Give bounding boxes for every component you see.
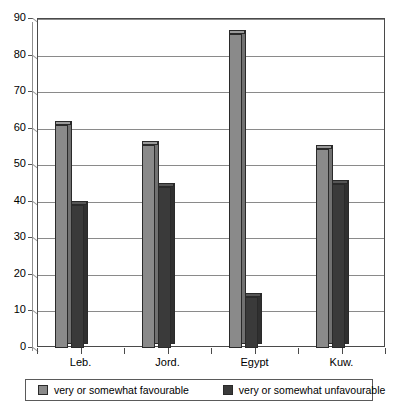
x-tick-mark (37, 348, 38, 354)
y-tick-label-wrap: 50 (2, 158, 26, 169)
y-tick-label-wrap: 20 (2, 268, 26, 279)
y-tick-label: 30 (14, 231, 26, 242)
bar-kuw-series1 (332, 180, 348, 349)
y-tick-label-wrap: 10 (2, 304, 26, 315)
x-tick-mark (124, 348, 125, 354)
bar-front-face (142, 145, 155, 348)
y-tick-label-wrap: 80 (2, 49, 26, 60)
x-tick-mark (81, 348, 82, 354)
legend-entry-1: very or somewhat unfavourable (223, 384, 386, 396)
y-tick-label: 0 (20, 341, 26, 352)
x-axis: Leb.Jord.EgyptKuw. (37, 348, 385, 368)
y-tick-label: 10 (14, 304, 26, 315)
bar-egypt-series1 (245, 293, 261, 348)
plot-area (37, 18, 385, 347)
gridline (38, 19, 384, 20)
chart-legend: very or somewhat favourablevery or somew… (25, 379, 373, 401)
bar-front-face (245, 297, 258, 348)
bar-leb-series1 (71, 201, 87, 348)
y-tick-label: 70 (14, 85, 26, 96)
bar-front-face (332, 184, 345, 349)
bar-leb-series0 (55, 121, 71, 348)
bar-jord-series1 (158, 183, 174, 348)
legend-entry-0: very or somewhat favourable (38, 384, 189, 396)
legend-label-1: very or somewhat unfavourable (239, 384, 386, 396)
y-tick-label: 20 (14, 268, 26, 279)
bar-front-face (71, 205, 84, 348)
bar-front-face (158, 187, 171, 348)
bar-front-face (55, 125, 68, 348)
x-tick-mark (342, 348, 343, 354)
y-tick-label-wrap: 30 (2, 231, 26, 242)
bar-chart: 0102030405060708090 Leb.Jord.EgyptKuw. v… (0, 0, 398, 411)
y-tick-label: 60 (14, 122, 26, 133)
x-tick-mark (168, 348, 169, 354)
bar-kuw-series0 (316, 145, 332, 348)
gridline (38, 56, 384, 57)
y-tick-label-wrap: 60 (2, 122, 26, 133)
y-tick-label: 40 (14, 195, 26, 206)
y-tick-label: 80 (14, 49, 26, 60)
x-axis-label-egypt: Egypt (211, 356, 298, 368)
bar-front-face (316, 149, 329, 348)
legend-swatch-0 (38, 385, 48, 395)
y-tick-label: 90 (14, 12, 26, 23)
x-axis-label-jord: Jord. (124, 356, 211, 368)
bar-front-face (229, 34, 242, 348)
x-axis-label-kuw: Kuw. (298, 356, 385, 368)
bar-jord-series0 (142, 141, 158, 348)
y-tick-label-wrap: 40 (2, 195, 26, 206)
gridline (38, 129, 384, 130)
y-tick-label-wrap: 90 (2, 12, 26, 23)
x-tick-mark (255, 348, 256, 354)
bar-egypt-series0 (229, 30, 245, 348)
legend-swatch-1 (223, 385, 233, 395)
y-tick-label-wrap: 0 (2, 341, 26, 352)
x-tick-mark (211, 348, 212, 354)
legend-label-0: very or somewhat favourable (54, 384, 189, 396)
y-tick-label: 50 (14, 158, 26, 169)
x-axis-label-leb: Leb. (37, 356, 124, 368)
x-tick-mark (385, 348, 386, 354)
y-tick-label-wrap: 70 (2, 85, 26, 96)
gridline (38, 92, 384, 93)
x-tick-mark (298, 348, 299, 354)
